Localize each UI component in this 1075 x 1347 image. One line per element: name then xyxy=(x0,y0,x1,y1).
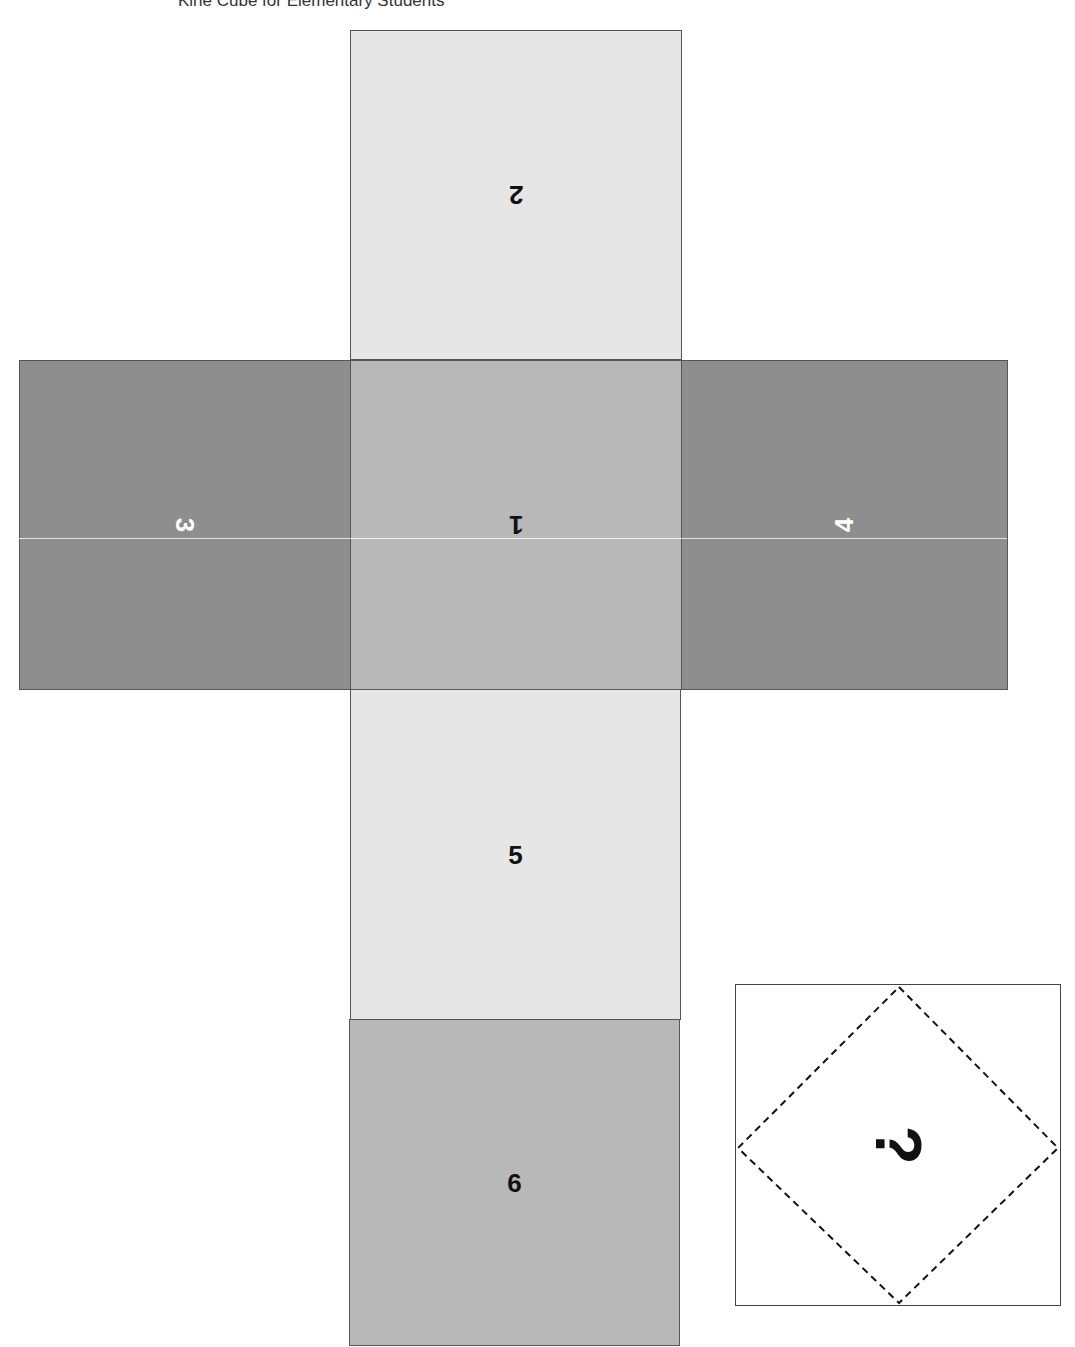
face-label-3: 3 xyxy=(172,518,198,532)
face-label-6: 6 xyxy=(507,1170,521,1196)
face-label-4: 4 xyxy=(832,518,858,532)
cube-face-2: 2 xyxy=(350,30,682,360)
cube-face-4: 4 xyxy=(681,360,1008,690)
face-label-5: 5 xyxy=(508,842,522,868)
face-label-2: 2 xyxy=(509,182,523,208)
page-title: Kirie Cube for Elementary Students xyxy=(178,0,444,11)
question-mark-icon: ? xyxy=(866,1125,930,1164)
mystery-face-box: ? xyxy=(735,984,1061,1306)
cube-face-6: 6 xyxy=(349,1019,680,1346)
middle-seam-line xyxy=(19,538,1007,539)
cube-face-5: 5 xyxy=(350,689,681,1020)
cube-face-1: 1 xyxy=(350,360,682,690)
cube-face-3: 3 xyxy=(19,360,351,690)
face-label-1: 1 xyxy=(509,512,523,538)
